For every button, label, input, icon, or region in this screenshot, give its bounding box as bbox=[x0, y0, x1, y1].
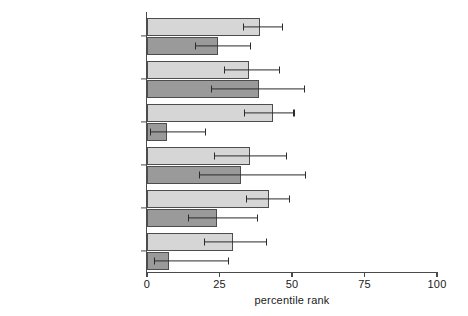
error-bar-cap-low-light-2 bbox=[244, 109, 245, 116]
x-tick-label-0: 0 bbox=[144, 278, 150, 290]
error-bar-cap-low-light-1 bbox=[224, 66, 225, 73]
error-bar-cap-low-light-5 bbox=[204, 238, 205, 245]
error-bar-cap-high-dark-1 bbox=[304, 85, 305, 92]
error-bar-cap-high-light-4 bbox=[289, 195, 290, 202]
error-bar-cap-high-light-5 bbox=[266, 238, 267, 245]
error-bar-cap-high-dark-0 bbox=[250, 42, 251, 49]
error-bar-cap-high-dark-3 bbox=[305, 171, 306, 178]
error-bar-cap-high-light-0 bbox=[282, 23, 283, 30]
error-bar-line-dark-1 bbox=[211, 88, 304, 89]
error-bar-line-dark-0 bbox=[195, 45, 250, 46]
error-bar-line-light-2 bbox=[244, 112, 293, 113]
error-bar-cap-high-light-1 bbox=[279, 66, 280, 73]
x-axis-title: percentile rank bbox=[147, 294, 437, 306]
error-bar-cap-low-dark-1 bbox=[211, 85, 212, 92]
error-bar-line-dark-3 bbox=[199, 174, 305, 175]
error-bar-line-dark-5 bbox=[154, 260, 228, 261]
error-bar-cap-low-light-0 bbox=[243, 23, 244, 30]
error-bar-cap-low-dark-3 bbox=[199, 171, 200, 178]
error-bar-cap-low-light-4 bbox=[246, 195, 247, 202]
category-tick-4 bbox=[141, 207, 146, 208]
x-tick-25 bbox=[219, 272, 220, 277]
error-bar-line-light-3 bbox=[214, 155, 287, 156]
category-tick-5 bbox=[141, 250, 146, 251]
chart-container: voice and accountabilitypolitical stabil… bbox=[0, 0, 468, 316]
error-bar-line-light-4 bbox=[246, 198, 290, 199]
error-bar-cap-high-light-2 bbox=[293, 109, 294, 116]
error-bar-cap-high-dark-4 bbox=[257, 214, 258, 221]
category-tick-0 bbox=[141, 35, 146, 36]
x-tick-label-50: 50 bbox=[286, 278, 299, 290]
x-tick-label-25: 25 bbox=[213, 278, 226, 290]
x-tick-label-100: 100 bbox=[428, 278, 447, 290]
error-bar-cap-high-dark-2 bbox=[205, 128, 206, 135]
error-bar-cap-high-dark-5 bbox=[228, 257, 229, 264]
error-bar-cap-low-dark-5 bbox=[154, 257, 155, 264]
error-bar-line-dark-2 bbox=[150, 131, 205, 132]
error-bar-line-dark-4 bbox=[188, 217, 258, 218]
error-bar-line-light-1 bbox=[224, 69, 279, 70]
error-bar-cap-low-dark-0 bbox=[195, 42, 196, 49]
error-bar-cap-low-dark-4 bbox=[188, 214, 189, 221]
x-tick-100 bbox=[436, 272, 437, 277]
x-tick-75 bbox=[364, 272, 365, 277]
x-tick-50 bbox=[291, 272, 292, 277]
error-bar-cap-high-light-3 bbox=[286, 152, 287, 159]
x-tick-0 bbox=[146, 272, 147, 277]
category-tick-3 bbox=[141, 164, 146, 165]
error-bar-cap-low-dark-2 bbox=[150, 128, 151, 135]
error-bar-line-light-0 bbox=[243, 26, 282, 27]
category-tick-2 bbox=[141, 121, 146, 122]
category-tick-1 bbox=[141, 78, 146, 79]
error-bar-cap-low-light-3 bbox=[214, 152, 215, 159]
x-tick-label-75: 75 bbox=[358, 278, 371, 290]
error-bar-line-light-5 bbox=[204, 241, 266, 242]
